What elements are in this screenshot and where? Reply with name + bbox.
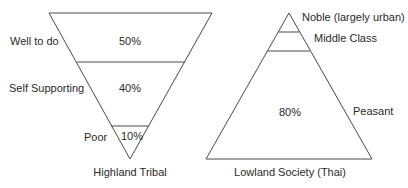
caption-highland-tribal: Highland Tribal — [93, 166, 166, 179]
tier-label-peasant: Peasant — [353, 105, 393, 118]
tier-label-poor: Poor — [84, 131, 107, 144]
tier-percent-peasant: 80% — [279, 106, 301, 119]
tier-percent-poor: 10% — [121, 130, 143, 143]
tier-label-well-to-do: Well to do — [10, 35, 59, 48]
tier-percent-self-supporting: 40% — [119, 82, 141, 95]
tier-percent-well-to-do: 50% — [119, 35, 141, 48]
caption-lowland-society: Lowland Society (Thai) — [234, 166, 346, 179]
tier-label-self-supporting: Self Supporting — [9, 82, 84, 95]
tier-label-middle-class: Middle Class — [314, 32, 377, 45]
tier-label-noble: Noble (largely urban) — [302, 11, 405, 24]
